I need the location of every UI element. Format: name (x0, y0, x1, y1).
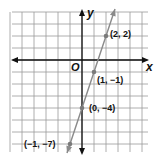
point-labels: (2, 2) (1, −1) (0, −4) (−1, −7) (24, 29, 131, 149)
point-label-neg1-neg7: (−1, −7) (24, 139, 56, 149)
x-axis-label: x (145, 60, 154, 74)
x-axis-left-arrow-icon (11, 57, 18, 63)
y-axis-label: y (86, 6, 95, 20)
point-label-2-2: (2, 2) (110, 29, 131, 39)
data-point (92, 70, 97, 75)
axes: x y O (11, 6, 154, 155)
y-axis-up-arrow-icon (79, 9, 85, 16)
line-arrow-up-icon (110, 9, 116, 17)
line-arrow-down-icon (66, 145, 72, 153)
data-point (80, 106, 85, 111)
point-label-0-neg4: (0, −4) (89, 103, 115, 113)
y-axis-down-arrow-icon (79, 148, 85, 155)
coordinate-graph: x y O (2, 2) (1, −1) (0, −4) (−1, −7) (0, 0, 160, 161)
data-point (68, 142, 73, 147)
origin-label: O (71, 61, 80, 73)
data-point (104, 34, 109, 39)
point-label-1-neg1: (1, −1) (97, 75, 123, 85)
